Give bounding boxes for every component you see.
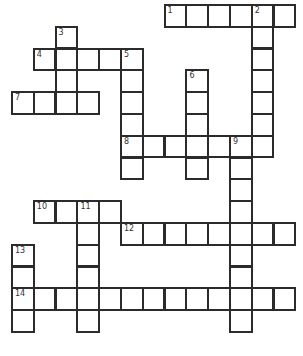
crossword-cell[interactable] xyxy=(207,135,231,159)
crossword-cell[interactable] xyxy=(273,287,297,311)
crossword-cell[interactable] xyxy=(55,48,79,72)
crossword-cell[interactable] xyxy=(273,222,297,246)
crossword-cell[interactable] xyxy=(142,222,166,246)
crossword-cell[interactable] xyxy=(120,157,144,181)
crossword-cell[interactable] xyxy=(120,91,144,115)
crossword-cell[interactable] xyxy=(164,222,188,246)
crossword-cell[interactable] xyxy=(185,4,209,28)
crossword-cell[interactable]: 6 xyxy=(185,69,209,93)
crossword-cell[interactable] xyxy=(229,222,253,246)
crossword-cell[interactable] xyxy=(251,135,275,159)
crossword-cell[interactable]: 9 xyxy=(229,135,253,159)
crossword-cell[interactable] xyxy=(11,309,35,333)
crossword-cell[interactable] xyxy=(55,91,79,115)
crossword-cell[interactable] xyxy=(76,91,100,115)
crossword-cell[interactable] xyxy=(229,244,253,268)
clue-number: 8 xyxy=(124,137,129,147)
crossword-cell[interactable] xyxy=(76,266,100,290)
crossword-cell[interactable] xyxy=(98,200,122,224)
crossword-cell[interactable] xyxy=(164,135,188,159)
crossword-cell[interactable] xyxy=(98,287,122,311)
crossword-cell[interactable]: 2 xyxy=(251,4,275,28)
crossword-cell[interactable] xyxy=(251,222,275,246)
clue-number: 9 xyxy=(233,137,238,147)
clue-number: 4 xyxy=(37,50,42,60)
crossword-cell[interactable] xyxy=(142,135,166,159)
crossword-cell[interactable] xyxy=(207,287,231,311)
crossword-cell[interactable] xyxy=(207,4,231,28)
crossword-cell[interactable]: 7 xyxy=(11,91,35,115)
crossword-cell[interactable] xyxy=(207,222,231,246)
clue-number: 1 xyxy=(168,6,173,16)
crossword-cell[interactable] xyxy=(164,287,188,311)
crossword-grid: 1234586791011121314 xyxy=(0,0,303,356)
crossword-cell[interactable] xyxy=(229,200,253,224)
clue-number: 3 xyxy=(59,28,64,38)
clue-number: 5 xyxy=(124,50,129,60)
crossword-cell[interactable] xyxy=(251,69,275,93)
crossword-cell[interactable] xyxy=(98,48,122,72)
crossword-cell[interactable] xyxy=(76,222,100,246)
crossword-cell[interactable] xyxy=(185,157,209,181)
crossword-cell[interactable]: 1 xyxy=(164,4,188,28)
crossword-cell[interactable] xyxy=(76,287,100,311)
crossword-cell[interactable] xyxy=(185,287,209,311)
crossword-cell[interactable] xyxy=(76,48,100,72)
crossword-cell[interactable] xyxy=(55,200,79,224)
crossword-cell[interactable]: 4 xyxy=(33,48,57,72)
crossword-cell[interactable] xyxy=(55,69,79,93)
crossword-cell[interactable] xyxy=(11,266,35,290)
crossword-cell[interactable] xyxy=(55,287,79,311)
clue-number: 2 xyxy=(255,6,260,16)
crossword-cell[interactable]: 12 xyxy=(120,222,144,246)
crossword-cell[interactable] xyxy=(251,113,275,137)
crossword-cell[interactable] xyxy=(229,157,253,181)
crossword-cell[interactable] xyxy=(251,48,275,72)
crossword-cell[interactable]: 8 xyxy=(120,135,144,159)
crossword-cell[interactable] xyxy=(251,26,275,50)
crossword-cell[interactable] xyxy=(33,91,57,115)
clue-number: 11 xyxy=(80,202,90,212)
crossword-cell[interactable]: 3 xyxy=(55,26,79,50)
crossword-cell[interactable] xyxy=(76,309,100,333)
crossword-cell[interactable]: 13 xyxy=(11,244,35,268)
crossword-cell[interactable] xyxy=(229,287,253,311)
crossword-cell[interactable]: 11 xyxy=(76,200,100,224)
clue-number: 10 xyxy=(37,202,47,212)
crossword-cell[interactable] xyxy=(185,135,209,159)
crossword-cell[interactable]: 10 xyxy=(33,200,57,224)
crossword-cell[interactable] xyxy=(33,287,57,311)
crossword-cell[interactable]: 5 xyxy=(120,48,144,72)
crossword-cell[interactable] xyxy=(229,4,253,28)
clue-number: 6 xyxy=(189,71,194,81)
crossword-cell[interactable] xyxy=(185,91,209,115)
crossword-cell[interactable] xyxy=(120,113,144,137)
clue-number: 14 xyxy=(15,289,25,299)
crossword-cell[interactable] xyxy=(251,91,275,115)
crossword-cell[interactable] xyxy=(229,178,253,202)
crossword-cell[interactable] xyxy=(251,287,275,311)
crossword-cell[interactable] xyxy=(229,266,253,290)
crossword-cell[interactable] xyxy=(120,287,144,311)
crossword-cell[interactable] xyxy=(185,222,209,246)
crossword-cell[interactable] xyxy=(120,69,144,93)
crossword-cell[interactable] xyxy=(229,309,253,333)
crossword-cell[interactable] xyxy=(142,287,166,311)
clue-number: 13 xyxy=(15,246,25,256)
crossword-cell[interactable]: 14 xyxy=(11,287,35,311)
crossword-cell[interactable] xyxy=(273,4,297,28)
crossword-cell[interactable] xyxy=(185,113,209,137)
clue-number: 7 xyxy=(15,93,20,103)
clue-number: 12 xyxy=(124,224,134,234)
crossword-cell[interactable] xyxy=(76,244,100,268)
